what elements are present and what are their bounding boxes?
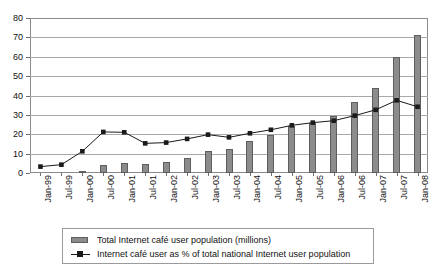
- x-axis-tick-label: Jul-05: [316, 175, 325, 200]
- bar: [246, 141, 253, 173]
- bar: [414, 35, 421, 173]
- x-axis-tick-label: Jul-99: [65, 175, 74, 200]
- x-axis-tick-label: Jul-01: [149, 175, 158, 200]
- bar: [121, 163, 128, 173]
- bar: [372, 88, 379, 173]
- chart-legend: Total Internet café user population (mil…: [62, 228, 374, 264]
- x-axis-tick-label: Jan-00: [86, 175, 95, 203]
- y-axis-tick: [26, 173, 30, 174]
- bar: [79, 171, 86, 173]
- x-axis-tick-label: Jan-99: [44, 175, 53, 203]
- bar: [226, 149, 233, 173]
- gridline: [30, 115, 428, 116]
- y-axis-tick-label: 50: [13, 72, 23, 81]
- y-axis-tick-label: 40: [13, 91, 23, 100]
- bar: [330, 116, 337, 173]
- bar-swatch-icon: [71, 237, 88, 243]
- legend-label-line: Internet café user as % of total nationa…: [97, 249, 350, 259]
- y-axis-tick-label: 0: [18, 169, 23, 178]
- y-axis: 01020304050607080: [0, 18, 30, 173]
- bar: [351, 102, 358, 173]
- x-axis-tick-label: Jan-08: [421, 175, 430, 203]
- y-axis-tick-label: 80: [13, 14, 23, 23]
- y-axis-tick-label: 30: [13, 110, 23, 119]
- legend-label-bar: Total Internet café user population (mil…: [97, 235, 271, 245]
- gridline: [30, 96, 428, 97]
- bar: [288, 126, 295, 173]
- y-axis-tick-label: 10: [13, 149, 23, 158]
- bar: [163, 162, 170, 173]
- bar: [267, 135, 274, 173]
- plot-area: [30, 18, 428, 173]
- legend-item-line: Internet café user as % of total nationa…: [71, 247, 350, 261]
- gridline: [30, 134, 428, 135]
- line-marker-swatch-icon: [71, 251, 90, 258]
- x-axis-tick-label: Jul-03: [233, 175, 242, 200]
- x-axis-tick-label: Jan-07: [379, 175, 388, 203]
- legend-item-bar: Total Internet café user population (mil…: [71, 233, 271, 247]
- x-axis-tick-label: Jan-02: [170, 175, 179, 203]
- gridline: [30, 37, 428, 38]
- bar: [393, 57, 400, 173]
- x-axis-tick-label: Jan-06: [337, 175, 346, 203]
- x-axis-tick-label: Jan-04: [253, 175, 262, 203]
- y-axis-tick-label: 70: [13, 33, 23, 42]
- x-axis-tick-label: Jul-02: [191, 175, 200, 200]
- y-axis-tick-label: 20: [13, 130, 23, 139]
- bar: [309, 123, 316, 173]
- bar: [184, 158, 191, 174]
- x-axis-tick-label: Jul-00: [107, 175, 116, 200]
- x-axis-tick-label: Jan-03: [212, 175, 221, 203]
- y-axis-tick-label: 60: [13, 52, 23, 61]
- gridline: [30, 57, 428, 58]
- x-axis-tick-label: Jan-05: [295, 175, 304, 203]
- x-axis-tick-label: Jan-01: [128, 175, 137, 203]
- gridline: [30, 76, 428, 77]
- x-axis-tick-label: Jul-07: [400, 175, 409, 200]
- chart-figure: 01020304050607080 Jan-99Jul-99Jan-00Jul-…: [0, 0, 434, 275]
- bar: [142, 164, 149, 173]
- x-axis-labels: Jan-99Jul-99Jan-00Jul-00Jan-01Jul-01Jan-…: [30, 175, 428, 217]
- x-axis-tick-label: Jul-06: [358, 175, 367, 200]
- x-axis-tick-label: Jul-04: [274, 175, 283, 200]
- bar: [100, 165, 107, 173]
- bar: [205, 151, 212, 173]
